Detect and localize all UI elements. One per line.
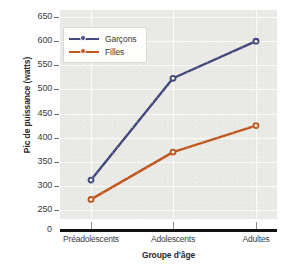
legend-swatch xyxy=(69,33,99,44)
data-point-marker-center xyxy=(255,124,258,127)
data-point-marker-center xyxy=(90,179,93,182)
y-tick-label: 300 xyxy=(22,180,52,190)
axis-origin-label: 0 xyxy=(22,224,52,234)
y-tick-mark xyxy=(54,89,59,90)
x-tick-mark xyxy=(256,222,257,229)
legend-label: Garçons xyxy=(105,34,136,44)
chart-figure: Pic de puissance (watts) 650600550500450… xyxy=(0,0,288,269)
y-tick-label: 500 xyxy=(22,83,52,93)
y-tick-mark xyxy=(54,65,59,66)
y-tick-mark xyxy=(54,162,59,163)
y-tick-mark xyxy=(54,186,59,187)
legend-marker-icon xyxy=(80,48,86,54)
x-axis-tick-labels: PréadolescentsAdolescentsAdultes xyxy=(60,234,277,248)
x-tick-mark xyxy=(91,222,92,229)
data-point-marker-center xyxy=(255,40,258,43)
y-tick-mark xyxy=(54,41,59,42)
y-tick-mark xyxy=(54,17,59,18)
series-line-2 xyxy=(91,126,256,200)
legend-label: Filles xyxy=(105,47,124,57)
y-tick-label: 450 xyxy=(22,108,52,118)
y-tick-label: 400 xyxy=(22,132,52,142)
y-tick-mark xyxy=(54,138,59,139)
legend-item-2: Filles xyxy=(69,45,136,58)
y-tick-mark xyxy=(54,210,59,211)
legend-marker-icon xyxy=(80,35,86,41)
data-point-marker-center xyxy=(172,151,175,154)
legend-swatch xyxy=(69,46,99,57)
y-tick-mark xyxy=(54,114,59,115)
legend-item-1: Garçons xyxy=(69,32,136,45)
legend: GarçonsFilles xyxy=(64,28,146,62)
y-tick-label: 600 xyxy=(22,35,52,45)
x-tick-mark xyxy=(173,222,174,229)
x-axis-line xyxy=(60,229,277,232)
x-tick-label: Adultes xyxy=(243,234,270,244)
x-tick-label: Préadolescents xyxy=(63,234,119,244)
y-tick-label: 350 xyxy=(22,156,52,166)
x-axis-tick-marks xyxy=(60,222,277,229)
y-tick-label: 550 xyxy=(22,59,52,69)
data-point-marker-center xyxy=(90,198,93,201)
y-tick-label: 650 xyxy=(22,11,52,21)
y-tick-label: 250 xyxy=(22,204,52,214)
data-point-marker-center xyxy=(172,77,175,80)
x-axis-title: Groupe d'âge xyxy=(60,250,277,260)
x-tick-label: Adolescents xyxy=(151,234,195,244)
